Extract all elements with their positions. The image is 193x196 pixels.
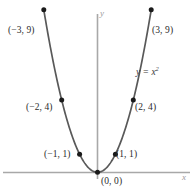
data-point-neg3-9 (41, 7, 46, 12)
point-label-pos2-4: (2, 4) (135, 103, 156, 113)
equation-label: y = x2 (136, 68, 159, 78)
data-point-pos3-9 (149, 7, 154, 12)
x-axis-label: x (182, 173, 186, 182)
point-label-neg1-1: (−1, 1) (44, 150, 71, 160)
data-point-neg2-4 (59, 98, 64, 103)
point-label-neg2-4: (−2, 4) (26, 103, 53, 113)
y-axis-label: y (100, 9, 104, 18)
data-point-origin (95, 170, 100, 175)
parabola-figure: (−3, 9) (3, 9) (−2, 4) (2, 4) (−1, 1) (1… (0, 0, 193, 196)
equation-label-base: y = x (136, 67, 156, 77)
data-point-neg1-1 (77, 152, 82, 157)
equation-label-exponent: 2 (156, 65, 159, 72)
point-label-neg3-9: (−3, 9) (8, 26, 35, 36)
point-label-pos1-1: (1, 1) (116, 150, 137, 160)
point-label-pos3-9: (3, 9) (152, 26, 173, 36)
point-label-origin: (0, 0) (101, 177, 122, 187)
